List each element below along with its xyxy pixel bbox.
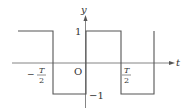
square-wave-diagram: y t O 1 −1 − T 2 T 2 (0, 0, 190, 108)
fraction-denominator: 2 (39, 76, 44, 85)
t-axis-label: t (176, 57, 181, 68)
t-axis-arrow-icon (169, 61, 175, 65)
minus-sign: − (27, 69, 35, 79)
fraction-denominator: 2 (124, 76, 129, 85)
t-axis (12, 61, 175, 65)
pos-half-period-label: T 2 (122, 66, 131, 85)
y-tick-high: 1 (75, 26, 81, 37)
y-axis-label: y (80, 4, 87, 15)
neg-half-period-label: − T 2 (27, 66, 46, 85)
fraction-numerator: T (39, 66, 45, 75)
y-axis-arrow-icon (84, 15, 88, 21)
fraction-numerator: T (124, 66, 130, 75)
origin-label: O (74, 66, 82, 77)
y-tick-low: −1 (89, 90, 104, 101)
